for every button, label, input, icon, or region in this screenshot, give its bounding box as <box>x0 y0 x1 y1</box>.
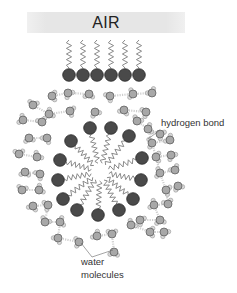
micelle-tail <box>75 146 94 166</box>
oxygen-atom <box>43 134 51 142</box>
oxygen-atom <box>41 218 49 226</box>
oxygen-atom <box>160 228 168 236</box>
oxygen-atom <box>129 90 137 98</box>
oxygen-atom <box>19 116 27 124</box>
oxygen-atom <box>127 221 135 229</box>
oxygen-atom <box>48 92 56 100</box>
micelle-head <box>105 122 118 135</box>
oxygen-atom <box>108 230 116 238</box>
micelle-head <box>52 174 65 187</box>
oxygen-atom <box>36 170 44 178</box>
oxygen-atom <box>144 125 152 133</box>
oxygen-atom <box>133 117 141 125</box>
oxygen-atom <box>54 234 62 242</box>
micelle-head <box>84 122 97 135</box>
oxygen-atom <box>120 106 128 114</box>
oxygen-atom <box>29 101 37 109</box>
hydrocarbon-tail <box>122 40 127 68</box>
oxygen-atom <box>148 89 156 97</box>
water-label-line2: molecules <box>81 268 124 281</box>
oxygen-atom <box>29 202 37 210</box>
oxygen-atom <box>146 228 154 236</box>
oxygen-atom <box>142 108 150 116</box>
oxygen-atom <box>56 218 64 226</box>
air-label: AIR <box>92 14 120 32</box>
hydrocarbon-tail <box>94 40 99 68</box>
micelle-tail <box>107 177 128 195</box>
diagram-canvas <box>0 0 237 293</box>
micelle-tail <box>109 172 135 181</box>
oxygen-atom <box>85 90 93 98</box>
oxygen-atom <box>15 150 23 158</box>
air-banner: AIR <box>27 12 185 33</box>
micelle-head <box>65 135 78 148</box>
surfactant-head <box>105 69 118 82</box>
oxygen-atom <box>148 139 156 147</box>
surfactant-head <box>133 69 146 82</box>
oxygen-atom <box>162 186 170 194</box>
oxygen-atom <box>164 200 172 208</box>
oxygen-atom <box>156 216 164 224</box>
surfactant-head <box>91 69 104 82</box>
oxygen-atom <box>166 136 174 144</box>
oxygen-atom <box>91 108 99 116</box>
micelle-head <box>113 204 126 217</box>
oxygen-atom <box>106 92 114 100</box>
hydrogen-bond-label: hydrogen bond <box>161 116 224 129</box>
micelle-head <box>135 174 148 187</box>
oxygen-atom <box>93 232 101 240</box>
micelle-core <box>92 164 108 180</box>
micelle-head <box>57 193 70 206</box>
hydrocarbon-tail <box>108 40 113 68</box>
hydrocarbon-tail <box>136 40 141 68</box>
oxygen-atom <box>38 118 46 126</box>
micelle-head <box>127 193 140 206</box>
surfactant-head <box>77 69 90 82</box>
oxygen-atom <box>66 107 74 115</box>
micelle-diagram: AIR hydrogen bond water molecules <box>0 0 237 293</box>
oxygen-atom <box>18 186 26 194</box>
oxygen-atom <box>25 134 33 142</box>
micelle-head <box>71 204 84 217</box>
oxygen-atom <box>152 153 160 161</box>
oxygen-atom <box>174 182 182 190</box>
micelle-tail <box>89 134 99 163</box>
oxygen-atom <box>33 153 41 161</box>
oxygen-atom <box>136 216 144 224</box>
micelle-tail <box>109 158 136 170</box>
oxygen-atom <box>21 168 29 176</box>
surfactant-head <box>119 69 132 82</box>
oxygen-atom <box>75 238 83 246</box>
oxygen-atom <box>64 89 72 97</box>
micelle-head <box>92 209 105 222</box>
micelle-head <box>54 154 67 167</box>
oxygen-atom <box>156 169 164 177</box>
hydrocarbon-tail <box>66 40 71 68</box>
surfactant-head <box>63 69 76 82</box>
hydrocarbon-tail <box>80 40 85 68</box>
oxygen-atom <box>167 151 175 159</box>
oxygen-atom <box>171 166 179 174</box>
oxygen-atom <box>44 201 52 209</box>
water-molecules-label: water molecules <box>81 255 124 281</box>
oxygen-atom <box>35 186 43 194</box>
micelle-tail <box>96 181 102 209</box>
water-label-line1: water <box>81 255 124 268</box>
oxygen-atom <box>156 130 164 138</box>
oxygen-atom <box>150 201 158 209</box>
micelle-head <box>136 152 149 165</box>
micelle-head <box>123 130 136 143</box>
